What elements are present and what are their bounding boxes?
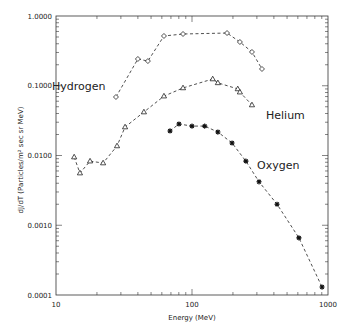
asterisk-center [204, 125, 206, 127]
asterisk-center [321, 286, 323, 288]
triangle-marker [72, 154, 77, 159]
triangle-marker [249, 102, 254, 107]
asterisk-center [191, 125, 193, 127]
series-label-hydrogen: Hydrogen [52, 80, 106, 93]
series-line [170, 124, 322, 287]
triangle-marker [141, 109, 146, 114]
plot-frame [56, 16, 328, 295]
asterisk-center [169, 130, 171, 132]
diamond-marker [135, 56, 140, 61]
series-oxygen [167, 121, 324, 289]
triangle-marker [215, 80, 220, 85]
series-hydrogen [113, 31, 264, 100]
x-tick-label: 1000 [319, 301, 337, 309]
asterisk-center [245, 160, 247, 162]
diamond-marker [145, 59, 150, 64]
asterisk-center [276, 203, 278, 205]
diamond-marker [249, 49, 254, 54]
energy-spectrum-chart: 1010010001.00000.10000.01000.00100.0001 … [0, 0, 352, 334]
y-tick-label: 0.0010 [28, 222, 53, 230]
triangle-marker [87, 158, 92, 163]
triangle-marker [210, 76, 215, 81]
asterisk-center [258, 181, 260, 183]
series-line [74, 79, 252, 173]
triangle-marker [122, 124, 127, 129]
diamond-marker [181, 31, 186, 36]
asterisk-center [178, 123, 180, 125]
series-label-helium: Helium [266, 109, 305, 122]
y-tick-label: 0.0001 [28, 292, 53, 300]
x-tick-label: 10 [52, 301, 61, 309]
series-label-oxygen: Oxygen [257, 159, 299, 172]
asterisk-center [231, 142, 233, 144]
asterisk-center [217, 131, 219, 133]
y-tick-label: 1.0000 [28, 13, 53, 21]
x-tick-label: 100 [185, 301, 198, 309]
plot-axes [56, 16, 328, 295]
triangle-marker [77, 170, 82, 175]
x-axis-title: Energy (MeV) [168, 314, 216, 322]
y-axis-title: dJ/dT (Particles/m² sec sr MeV) [17, 106, 25, 213]
diamond-marker [225, 31, 230, 36]
y-tick-label: 0.1000 [28, 82, 53, 90]
diamond-marker [259, 66, 264, 71]
diamond-marker [113, 94, 118, 99]
triangle-marker [101, 160, 106, 165]
triangle-marker [114, 143, 119, 148]
asterisk-center [298, 237, 300, 239]
y-tick-label: 0.0100 [28, 152, 53, 160]
diamond-marker [161, 33, 166, 38]
